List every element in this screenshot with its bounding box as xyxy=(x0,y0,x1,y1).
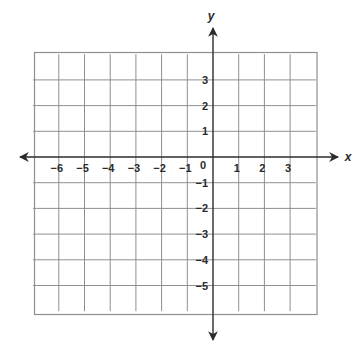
y-tick-label: −1 xyxy=(195,177,208,189)
coordinate-grid: −6−5−4−3−2−1123 321−1−2−3−4−5 0 x y xyxy=(0,0,360,352)
x-tick-label: −5 xyxy=(76,162,89,174)
y-tick-label: −2 xyxy=(195,202,208,214)
x-tick-label: −6 xyxy=(51,162,64,174)
y-tick-label: −3 xyxy=(195,228,208,240)
y-axis-label: y xyxy=(207,9,216,23)
x-tick-label: 2 xyxy=(259,162,265,174)
x-tick-label: 3 xyxy=(285,162,291,174)
y-tick-label: −4 xyxy=(195,254,208,266)
x-tick-label: 1 xyxy=(234,162,240,174)
x-tick-label: −2 xyxy=(153,162,166,174)
y-tick-label: 3 xyxy=(202,74,208,86)
origin-label: 0 xyxy=(200,159,206,171)
y-tick-label: 2 xyxy=(202,100,208,112)
x-tick-label: −4 xyxy=(102,162,115,174)
y-tick-label: 1 xyxy=(202,125,208,137)
x-axis-label: x xyxy=(344,150,353,164)
grid-border xyxy=(35,53,318,315)
y-tick-label: −5 xyxy=(195,280,208,292)
x-tick-label: −3 xyxy=(128,162,141,174)
y-tick-labels: 321−1−2−3−4−5 xyxy=(195,74,208,292)
x-tick-label: −1 xyxy=(179,162,192,174)
grid-lines xyxy=(33,54,316,311)
x-tick-labels: −6−5−4−3−2−1123 xyxy=(51,162,292,174)
